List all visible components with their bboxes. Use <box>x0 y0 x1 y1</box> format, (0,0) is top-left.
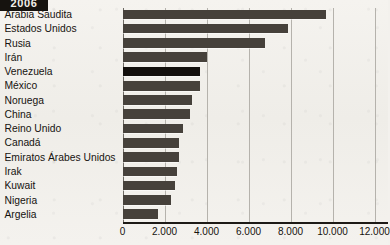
category-label: Noruega <box>5 94 123 108</box>
bar-row: México <box>123 79 375 93</box>
x-tick-label: 2.000 <box>152 226 177 237</box>
bar-row: Venezuela <box>123 65 375 79</box>
category-label: Canadá <box>5 136 123 150</box>
bar-row: Nigeria <box>123 194 375 208</box>
bar-row: Irak <box>123 165 375 179</box>
category-label: Rusia <box>5 37 123 51</box>
category-label: Argelia <box>5 208 123 222</box>
bar-row: Kuwait <box>123 179 375 193</box>
x-tick-label: 12.000 <box>359 226 390 237</box>
bar-row: Rusia <box>123 37 375 51</box>
bar-row: China <box>123 108 375 122</box>
bar-row: Estados Unidos <box>123 22 375 36</box>
x-tick-label: 6.000 <box>236 226 261 237</box>
bar <box>123 95 192 105</box>
category-label: Arabia Saudita <box>5 8 123 22</box>
bar-row: Canadá <box>123 136 375 150</box>
category-label: México <box>5 79 123 93</box>
bar <box>123 138 180 148</box>
gridline <box>375 8 376 222</box>
bar-row: Noruega <box>123 94 375 108</box>
plot-area: Arabia SauditaEstados UnidosRusiaIránVen… <box>123 8 375 222</box>
category-label: Venezuela <box>5 65 123 79</box>
category-label: Reino Unido <box>5 122 123 136</box>
bar-row: Argelia <box>123 208 375 222</box>
category-label: Irán <box>5 51 123 65</box>
x-tick-label: 0 <box>120 226 126 237</box>
x-tick-label: 4.000 <box>194 226 219 237</box>
category-label: Emiratos Árabes Unidos <box>5 151 123 165</box>
bar <box>123 10 327 20</box>
bar <box>123 124 184 134</box>
category-label: Kuwait <box>5 179 123 193</box>
x-tick-label: 10.000 <box>317 226 348 237</box>
bar <box>123 52 207 62</box>
bar <box>123 167 178 177</box>
bar <box>123 195 171 205</box>
bar-row: Emiratos Árabes Unidos <box>123 151 375 165</box>
category-label: Nigeria <box>5 194 123 208</box>
bar-row: Irán <box>123 51 375 65</box>
bar <box>123 81 201 91</box>
x-axis-line <box>123 222 388 224</box>
category-label: Estados Unidos <box>5 22 123 36</box>
category-label: Irak <box>5 165 123 179</box>
category-label: China <box>5 108 123 122</box>
bar <box>123 152 180 162</box>
bar <box>123 109 190 119</box>
bar <box>123 67 201 77</box>
bar <box>123 209 159 219</box>
bar-row: Arabia Saudita <box>123 8 375 22</box>
bar <box>123 181 176 191</box>
bar-row: Reino Unido <box>123 122 375 136</box>
x-tick-label: 8.000 <box>278 226 303 237</box>
bar <box>123 38 266 48</box>
bar <box>123 24 289 34</box>
